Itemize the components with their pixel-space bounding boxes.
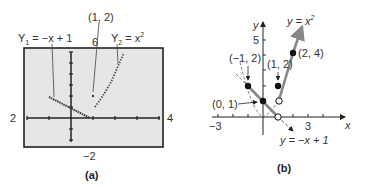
screen-frame [24, 48, 163, 147]
open-point-1-0 [275, 114, 281, 120]
callout-0-1 [238, 102, 257, 104]
b-label-x-axis: x [344, 119, 351, 131]
panel-a-calculator-screen [24, 48, 163, 147]
open-point-1-1 [276, 98, 282, 104]
label-y1: Y1 = −x + 1 [18, 32, 72, 46]
b-label-0-1: (0, 1) [212, 98, 238, 110]
b-dashed-parabola [240, 62, 278, 117]
point-0-1 [260, 98, 266, 104]
b-label-y-axis: y [252, 19, 260, 31]
b-label-2-4: (2, 4) [298, 47, 324, 59]
label-xmax: 4 [167, 112, 173, 124]
point-neg1-2 [245, 83, 251, 89]
b-tick-5: 5 [253, 34, 259, 46]
b-label-parabola: y = x2 [286, 14, 315, 27]
b-label-1-2: (1, 2) [267, 58, 293, 70]
caption-a: (a) [85, 169, 99, 181]
b-tick-neg3: −3 [209, 120, 222, 132]
b-label-line: y = −x + 1 [279, 134, 329, 146]
label-ymax: 6 [92, 36, 98, 48]
point-1-2-b [275, 83, 281, 89]
label-ymin: −2 [83, 150, 96, 162]
point-1-2 [92, 95, 94, 97]
point-2-4 [290, 50, 296, 56]
label-point-1-2: (1, 2) [88, 11, 114, 23]
caption-b: (b) [277, 162, 291, 174]
figure: Y1 = −x + 1 (1, 2) 6 Y2 = x2 2 4 −2 (a) [0, 0, 367, 186]
label-xmin: 2 [10, 112, 16, 124]
b-tick-3: 3 [305, 120, 311, 132]
label-y2: Y2 = x2 [111, 31, 144, 46]
b-label-neg1-2: (−1, 2) [229, 52, 261, 64]
panel-b-graph [212, 22, 345, 135]
